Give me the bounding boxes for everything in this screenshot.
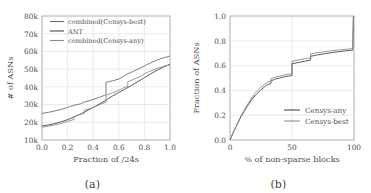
svg-text:50k: 50k — [24, 65, 38, 74]
svg-text:70k: 70k — [24, 30, 38, 39]
legend-label-ant: ANT — [67, 28, 84, 36]
svg-text:40k: 40k — [24, 83, 38, 92]
legend-label-censys-any: Censys-any — [305, 106, 347, 115]
svg-text:30k: 30k — [24, 100, 38, 109]
legend-label-censys-best: Censys-best — [305, 117, 349, 126]
svg-text:20k: 20k — [24, 118, 38, 127]
legend-label-combined-censys-best: combined(Censys-best) — [68, 18, 146, 26]
svg-text:60k: 60k — [24, 47, 38, 56]
panel-a: 10k20k30k40k50k60k70k80k 0.00.20.40.60.8… — [0, 0, 185, 193]
svg-text:0.2: 0.2 — [214, 111, 226, 120]
y-axis-label-b: Fraction of ASNs — [191, 42, 201, 113]
y-tick-labels-a: 10k20k30k40k50k60k70k80k — [24, 12, 38, 145]
x-tick-labels-a: 0.00.20.40.60.81.0 — [36, 143, 176, 152]
legend-label-combined-censys-any: combined(Censys-any) — [68, 37, 144, 45]
plot-area-b: 0.00.20.40.60.81.0 050100 % of non-spars… — [191, 12, 361, 164]
figure-container: 10k20k30k40k50k60k70k80k 0.00.20.40.60.8… — [0, 0, 371, 193]
chart-b: 0.00.20.40.60.81.0 050100 % of non-spars… — [186, 0, 371, 170]
svg-text:50: 50 — [287, 143, 297, 152]
svg-text:0.0: 0.0 — [214, 136, 226, 145]
svg-text:0.2: 0.2 — [62, 143, 74, 152]
svg-text:0.6: 0.6 — [214, 61, 226, 70]
panel-caption-a: (a) — [0, 178, 185, 191]
svg-text:1.0: 1.0 — [164, 143, 176, 152]
svg-text:0.6: 0.6 — [113, 143, 125, 152]
y-axis-label-a: # of ASNs — [5, 57, 15, 100]
svg-text:0.4: 0.4 — [214, 86, 226, 95]
svg-text:0.8: 0.8 — [139, 143, 151, 152]
chart-a: 10k20k30k40k50k60k70k80k 0.00.20.40.60.8… — [0, 0, 185, 170]
svg-text:1.0: 1.0 — [214, 12, 226, 21]
x-tick-labels-b: 050100 — [228, 143, 362, 152]
svg-text:100: 100 — [347, 143, 361, 152]
panel-caption-b: (b) — [186, 178, 371, 191]
svg-text:0.8: 0.8 — [214, 37, 226, 46]
panel-b: 0.00.20.40.60.81.0 050100 % of non-spars… — [186, 0, 371, 193]
x-axis-label-b: % of non-sparse blocks — [244, 154, 340, 164]
svg-text:80k: 80k — [24, 12, 38, 21]
plot-area-a: 10k20k30k40k50k60k70k80k 0.00.20.40.60.8… — [5, 12, 176, 164]
svg-text:0.4: 0.4 — [87, 143, 99, 152]
x-axis-label-a: Fraction of /24s — [73, 154, 139, 164]
svg-text:0.0: 0.0 — [36, 143, 48, 152]
svg-text:0: 0 — [228, 143, 233, 152]
y-tick-labels-b: 0.00.20.40.60.81.0 — [214, 12, 226, 145]
